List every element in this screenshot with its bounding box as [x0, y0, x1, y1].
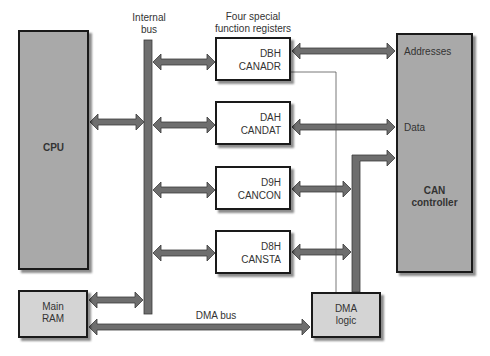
data-label: Data: [404, 122, 425, 133]
register-cansta: D8H CANSTA: [215, 230, 291, 274]
cancon-dma-arrow: [292, 181, 351, 197]
cansta-dma-arrow: [292, 244, 351, 260]
internal-bus-bar: [144, 40, 152, 314]
register-candat: DAH CANDAT: [215, 101, 291, 145]
bus-cancon-arrow: [153, 182, 215, 198]
canadr-dma-line: [291, 72, 336, 292]
addresses-label: Addresses: [404, 46, 451, 57]
sfr-title: Four special function registers: [204, 11, 302, 35]
cpu-block: CPU: [18, 30, 89, 270]
can-controller-block: Addresses Data CAN controller: [396, 33, 473, 273]
register-name: CANSTA: [241, 254, 281, 265]
bus-canadr-arrow: [153, 54, 215, 70]
main-ram-label-line2: RAM: [20, 313, 86, 325]
candat-data-arrow: [292, 119, 395, 135]
internal-bus-label: Internal bus: [126, 12, 172, 36]
canadr-addresses-arrow: [292, 43, 395, 59]
register-code: DAH: [260, 112, 281, 123]
sfr-title-line1: Four special: [204, 11, 302, 23]
bus-cansta-arrow: [153, 245, 215, 261]
internal-bus-label-line2: bus: [126, 24, 172, 36]
dma-logic-label-line2: logic: [313, 315, 379, 327]
internal-bus-label-line1: Internal: [126, 12, 172, 24]
register-code: D9H: [261, 177, 281, 188]
cpu-bus-arrow: [90, 114, 144, 130]
dma-logic-block: DMA logic: [311, 292, 381, 338]
dma-bus-label: DMA bus: [186, 310, 246, 322]
main-ram-block: Main RAM: [18, 290, 88, 338]
dma-can-arrow: [352, 150, 395, 292]
dma-logic-label-line1: DMA: [313, 303, 379, 315]
cpu-label: CPU: [20, 142, 87, 154]
ram-bus-arrow: [89, 292, 143, 308]
can-controller-label-line1: CAN: [398, 185, 471, 197]
can-controller-label-line2: controller: [398, 197, 471, 209]
register-cancon: D9H CANCON: [215, 166, 291, 210]
bus-candat-arrow: [153, 117, 215, 133]
register-name: CANCON: [238, 190, 281, 201]
main-ram-label-line1: Main: [20, 301, 86, 313]
register-code: D8H: [261, 241, 281, 252]
register-name: CANDAT: [241, 125, 281, 136]
register-code: DBH: [260, 48, 281, 59]
register-name: CANADR: [239, 61, 281, 72]
register-canadr: DBH CANADR: [215, 37, 291, 81]
sfr-title-line2: function registers: [204, 23, 302, 35]
